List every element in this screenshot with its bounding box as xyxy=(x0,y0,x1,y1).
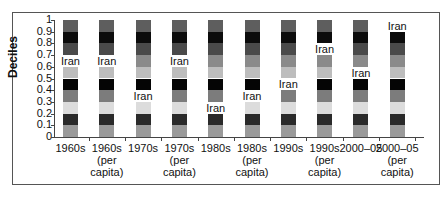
decile-segment xyxy=(136,55,151,67)
x-tick-mark xyxy=(306,137,307,141)
y-tick-mark xyxy=(51,67,55,68)
y-tick-mark xyxy=(51,20,55,21)
decile-segment xyxy=(390,43,405,55)
iran-annotation: Iran xyxy=(128,91,158,102)
y-tick-mark xyxy=(51,102,55,103)
y-tick-mark xyxy=(51,79,55,80)
y-tick-label: 0.6 xyxy=(36,61,52,72)
x-tick-label: 1980s(percapita) xyxy=(232,142,272,178)
y-tick-label: 0.4 xyxy=(36,84,52,95)
decile-segment xyxy=(390,67,405,79)
y-tick-mark xyxy=(51,125,55,126)
decile-segment xyxy=(281,90,296,102)
x-tick-mark xyxy=(379,137,380,141)
decile-segment xyxy=(99,67,114,79)
decile-segment xyxy=(245,102,260,114)
x-tick-mark xyxy=(198,137,199,141)
decile-segment xyxy=(281,32,296,44)
decile-segment xyxy=(136,79,151,91)
y-tick-mark xyxy=(51,137,55,138)
decile-segment xyxy=(99,43,114,55)
x-tick-label: 2000–05(percapita) xyxy=(373,142,421,178)
decile-segment xyxy=(317,102,332,114)
decile-segment xyxy=(136,102,151,114)
decile-segment xyxy=(317,67,332,79)
decile-segment xyxy=(281,43,296,55)
decile-segment xyxy=(317,32,332,44)
decile-segment xyxy=(172,114,187,126)
x-tick-label: 1970s xyxy=(123,142,163,154)
decile-segment xyxy=(353,125,368,137)
decile-segment xyxy=(63,20,78,32)
y-tick-label: 0.2 xyxy=(36,108,52,119)
x-tick-mark xyxy=(270,137,271,141)
decile-segment xyxy=(208,20,223,32)
decile-segment xyxy=(353,20,368,32)
decile-segment xyxy=(245,125,260,137)
decile-segment xyxy=(63,114,78,126)
decile-segment xyxy=(353,102,368,114)
decile-segment xyxy=(172,102,187,114)
decile-segment xyxy=(63,90,78,102)
decile-segment xyxy=(99,114,114,126)
decile-segment xyxy=(281,125,296,137)
decile-segment xyxy=(208,67,223,79)
x-tick-mark xyxy=(234,137,235,141)
decile-segment xyxy=(390,79,405,91)
x-tick-mark xyxy=(125,137,126,141)
decile-segment xyxy=(172,67,187,79)
x-tick-mark xyxy=(343,137,344,141)
decile-segment xyxy=(99,32,114,44)
decile-segment xyxy=(99,125,114,137)
decile-segment xyxy=(208,79,223,91)
decile-segment xyxy=(353,79,368,91)
x-tick-label: 1990s xyxy=(268,142,308,154)
decile-segment xyxy=(63,125,78,137)
iran-annotation: Iran xyxy=(346,68,376,79)
decile-segment xyxy=(136,43,151,55)
decile-segment xyxy=(281,20,296,32)
x-tick-label: 1960s xyxy=(51,142,91,154)
x-tick-label: 1980s xyxy=(196,142,236,154)
decile-segment xyxy=(245,67,260,79)
decile-segment xyxy=(136,32,151,44)
y-axis-label: Deciles xyxy=(6,36,20,78)
x-tick-mark xyxy=(161,137,162,141)
y-tick-label: 0.3 xyxy=(36,96,52,107)
decile-segment xyxy=(353,90,368,102)
decile-segment xyxy=(63,43,78,55)
decile-segment xyxy=(208,32,223,44)
y-tick-mark xyxy=(51,32,55,33)
decile-segment xyxy=(99,20,114,32)
decile-segment xyxy=(281,114,296,126)
decile-segment xyxy=(136,114,151,126)
decile-segment xyxy=(63,32,78,44)
decile-segment xyxy=(245,79,260,91)
y-tick-label: 1 xyxy=(36,14,52,25)
decile-segment xyxy=(353,114,368,126)
iran-annotation: Iran xyxy=(164,56,194,67)
decile-segment xyxy=(172,43,187,55)
decile-segment xyxy=(172,20,187,32)
decile-segment xyxy=(317,90,332,102)
decile-segment xyxy=(245,55,260,67)
iran-annotation: Iran xyxy=(273,79,303,90)
decile-segment xyxy=(63,102,78,114)
decile-segment xyxy=(317,20,332,32)
decile-segment xyxy=(136,67,151,79)
x-tick-label: 1960s(percapita) xyxy=(87,142,127,178)
y-tick-mark xyxy=(51,55,55,56)
decile-segment xyxy=(63,67,78,79)
decile-segment xyxy=(281,67,296,79)
decile-segment xyxy=(99,102,114,114)
decile-segment xyxy=(317,125,332,137)
decile-segment xyxy=(317,79,332,91)
decile-segment xyxy=(136,20,151,32)
decile-segment xyxy=(353,32,368,44)
y-tick-label: 0.5 xyxy=(36,73,52,84)
iran-annotation: Iran xyxy=(56,56,86,67)
decile-segment xyxy=(390,90,405,102)
decile-segment xyxy=(390,102,405,114)
x-tick-mark xyxy=(89,137,90,141)
decile-segment xyxy=(172,125,187,137)
